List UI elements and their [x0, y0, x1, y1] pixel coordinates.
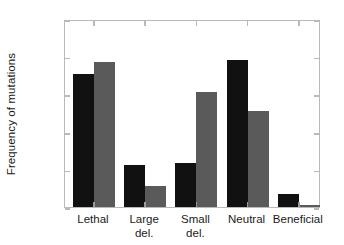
y-tick-mark — [65, 58, 70, 60]
x-tick-mark — [144, 202, 146, 207]
y-tick-mark-right — [314, 95, 319, 97]
x-tick-mark-top — [93, 21, 95, 26]
bar — [175, 163, 196, 207]
bar — [196, 92, 217, 207]
bar-chart: Frequency of mutations 0.00.10.20.30.40.… — [0, 0, 344, 245]
x-tick-mark — [93, 202, 95, 207]
x-tick-mark-top — [144, 21, 146, 26]
y-tick-mark-right — [314, 58, 319, 60]
y-tick-mark-right — [314, 133, 319, 135]
y-tick-mark-right — [314, 208, 319, 210]
bar — [227, 60, 248, 207]
plot-area — [64, 20, 320, 208]
bar — [248, 111, 269, 207]
x-tick-mark-top — [298, 21, 300, 26]
bar — [278, 194, 299, 207]
bar — [94, 62, 115, 207]
y-axis-title: Frequency of mutations — [0, 20, 22, 208]
x-tick-mark — [247, 202, 249, 207]
x-tick-mark-top — [196, 21, 198, 26]
y-tick-mark — [65, 133, 70, 135]
y-tick-mark — [65, 171, 70, 173]
x-tick-mark — [298, 202, 300, 207]
x-tick-mark-top — [247, 21, 249, 26]
y-tick-mark — [65, 20, 70, 22]
y-tick-mark — [65, 95, 70, 97]
y-tick-mark-right — [314, 171, 319, 173]
x-tick-mark — [196, 202, 198, 207]
bar — [145, 186, 166, 207]
y-tick-mark — [65, 208, 70, 210]
bar — [299, 205, 320, 207]
x-tick-label: Beneficial — [263, 212, 333, 226]
bar — [73, 74, 94, 207]
bar — [124, 165, 145, 207]
y-tick-mark-right — [314, 20, 319, 22]
